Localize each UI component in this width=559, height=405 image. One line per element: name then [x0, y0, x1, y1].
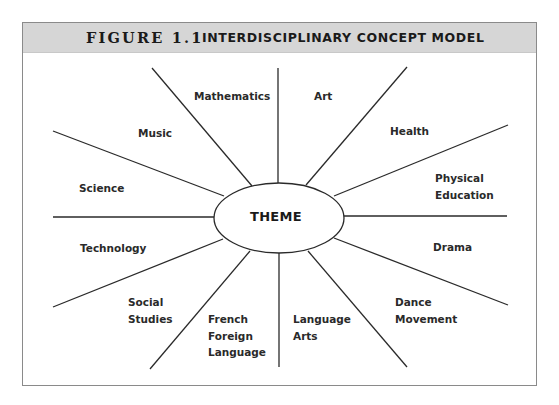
label-mathematics: Mathematics — [194, 88, 270, 105]
label-dance-movement: Dance Movement — [395, 294, 457, 327]
label-language-arts: Language Arts — [293, 311, 351, 344]
label-music: Music — [138, 125, 172, 142]
label-physical-education: Physical Education — [435, 170, 494, 203]
label-art: Art — [314, 88, 332, 105]
label-science: Science — [79, 180, 124, 197]
theme-label: THEME — [250, 209, 302, 224]
label-technology: Technology — [80, 240, 146, 257]
label-health: Health — [390, 123, 429, 140]
spoke-line-bottom-right — [308, 251, 407, 367]
label-french-foreign-language: French Foreign Language — [208, 311, 266, 361]
label-social-studies: Social Studies — [128, 294, 173, 327]
label-drama: Drama — [433, 239, 472, 256]
